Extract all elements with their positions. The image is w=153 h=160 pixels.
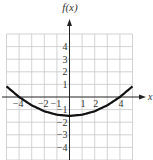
y-axis-arrow-icon — [67, 19, 72, 26]
function-graph: −4−2−11244321−1−2−3−4 f(x) x — [0, 0, 153, 160]
x-tick-label: −2 — [38, 98, 49, 109]
y-tick-label: 1 — [63, 79, 68, 90]
x-tick-label: 1 — [81, 98, 86, 109]
x-tick-label: 2 — [93, 98, 98, 109]
x-axis-label: x — [147, 91, 153, 102]
x-axis-arrow-icon — [139, 95, 146, 100]
y-tick-label: 4 — [63, 41, 68, 52]
y-tick-label: −4 — [57, 142, 68, 153]
y-tick-label: −2 — [57, 117, 68, 128]
x-tick-label: 4 — [118, 98, 123, 109]
y-tick-label: 3 — [63, 54, 68, 65]
y-axis-label: f(x) — [62, 1, 78, 14]
y-tick-label: −1 — [57, 104, 68, 115]
y-tick-label: −3 — [57, 129, 68, 140]
y-tick-label: 2 — [63, 66, 68, 77]
axes — [2, 19, 146, 160]
